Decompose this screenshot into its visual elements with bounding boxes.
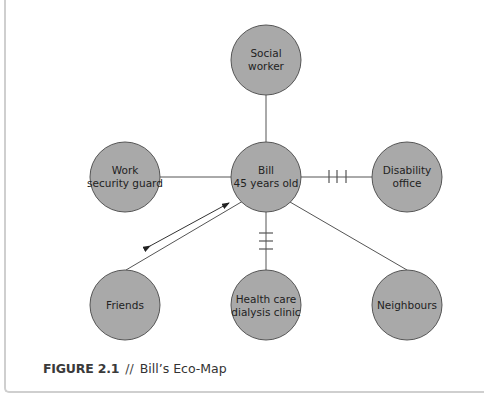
node-social-worker: Social worker [231, 25, 301, 95]
edge-bill-neighbours [290, 202, 407, 270]
node-work: Work security guard [87, 142, 163, 212]
node-label: worker [248, 60, 284, 72]
bidirectional-flow-arrow [150, 203, 229, 246]
caption-separator: // [125, 361, 133, 376]
node-label: Bill [258, 164, 274, 176]
node-neighbours: Neighbours [372, 270, 442, 340]
node-label: Social [250, 47, 281, 59]
figure-title: Bill’s Eco-Map [140, 361, 227, 376]
node-label: Disability [383, 164, 432, 176]
figure-number: FIGURE 2.1 [43, 361, 119, 376]
node-label: Health care [236, 293, 297, 305]
node-health-care: Health care dialysis clinic [231, 270, 301, 340]
figure-caption: FIGURE 2.1//Bill’s Eco-Map [43, 361, 227, 376]
node-label: Friends [106, 299, 144, 311]
node-label: office [393, 177, 422, 189]
node-label: 45 years old [234, 177, 299, 189]
edge-bill-friends [126, 201, 243, 270]
node-label: dialysis clinic [231, 306, 301, 318]
node-label: Neighbours [377, 299, 437, 311]
node-friends: Friends [90, 270, 160, 340]
node-disability-office: Disability office [372, 142, 442, 212]
node-label: Work [112, 164, 140, 176]
node-bill: Bill 45 years old [231, 142, 301, 212]
node-label: security guard [87, 177, 163, 189]
